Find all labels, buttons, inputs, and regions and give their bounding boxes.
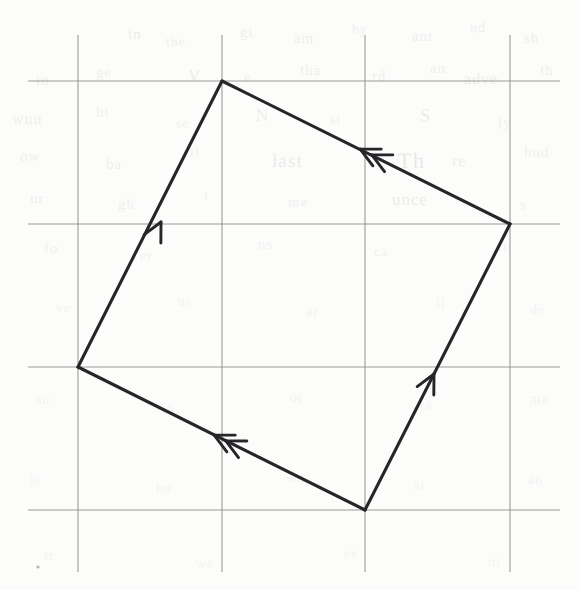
figure-root: inthegiambyantndshingeVethardanadvethwuu… — [0, 0, 580, 590]
paper-speck-dot — [36, 565, 39, 568]
paper-speck — [36, 565, 39, 568]
edge-arrow-markings — [144, 149, 434, 458]
left-edge-arrowhead — [144, 222, 161, 243]
parallelogram-outline — [78, 81, 510, 510]
parallelogram-figure — [0, 0, 580, 590]
top-right-edge — [222, 81, 510, 224]
